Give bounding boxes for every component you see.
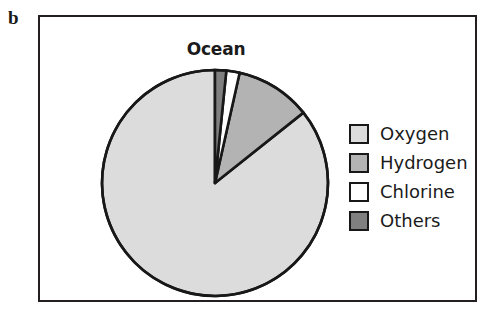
legend-item: Oxygen bbox=[349, 123, 468, 145]
legend-label: Others bbox=[380, 212, 441, 230]
legend-swatch bbox=[349, 211, 369, 231]
legend-swatch bbox=[349, 153, 369, 173]
chart-title: Ocean bbox=[138, 39, 294, 59]
pie-chart bbox=[95, 63, 335, 303]
legend-label: Hydrogen bbox=[380, 154, 468, 172]
legend-item: Others bbox=[349, 210, 468, 232]
figure-frame: Ocean OxygenHydrogenChlorineOthers bbox=[38, 15, 477, 302]
legend-label: Oxygen bbox=[380, 125, 449, 143]
legend-swatch bbox=[349, 182, 369, 202]
legend-swatch bbox=[349, 124, 369, 144]
panel-letter: b bbox=[8, 8, 19, 27]
legend-item: Hydrogen bbox=[349, 152, 468, 174]
legend-label: Chlorine bbox=[380, 183, 455, 201]
chart-legend: OxygenHydrogenChlorineOthers bbox=[349, 123, 468, 232]
legend-item: Chlorine bbox=[349, 181, 468, 203]
